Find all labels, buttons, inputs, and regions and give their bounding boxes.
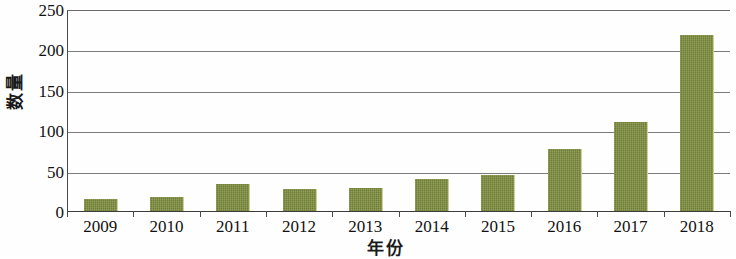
x-axis-tick-label: 2012: [267, 216, 331, 237]
bar: [283, 189, 317, 212]
bars-layer: [67, 10, 730, 212]
y-axis-tick-label: 150: [22, 82, 64, 99]
x-axis-tick-label: 2018: [665, 216, 729, 237]
y-axis-tick-label: 200: [22, 42, 64, 59]
bar: [481, 175, 515, 212]
y-axis-tick-labels: 050100150200250: [22, 0, 64, 256]
bar: [349, 188, 383, 212]
bar: [216, 184, 250, 212]
bar: [680, 35, 714, 212]
bar: [150, 197, 184, 212]
y-axis-tick-label: 250: [22, 2, 64, 19]
x-axis-title: 年份: [340, 234, 432, 259]
x-axis-tick-label: 2017: [599, 216, 663, 237]
y-axis-tick-label: 50: [22, 163, 64, 180]
x-axis-tick-label: 2009: [68, 216, 132, 237]
x-axis-tick-label: 2010: [134, 216, 198, 237]
bar: [614, 122, 648, 212]
x-axis-tick-label: 2016: [532, 216, 596, 237]
y-axis-tick-label: 0: [22, 204, 64, 221]
x-axis-tick-label: 2011: [201, 216, 265, 237]
bar: [548, 149, 582, 212]
x-axis-tick-label: 2015: [466, 216, 530, 237]
x-axis-minor-tick: [730, 211, 731, 217]
bar: [415, 179, 449, 212]
y-axis-tick-label: 100: [22, 123, 64, 140]
